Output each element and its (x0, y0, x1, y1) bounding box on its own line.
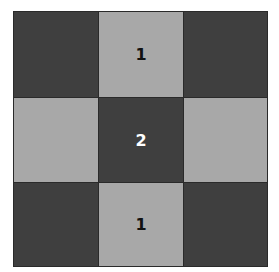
cell-r1-c1[interactable]: 2 (99, 98, 183, 182)
cell-r2-c2[interactable] (184, 183, 267, 266)
cell-r1-c2[interactable] (184, 98, 267, 182)
cell-r2-c1[interactable]: 1 (99, 183, 183, 266)
cell-value: 1 (135, 45, 146, 64)
game-board: 1 2 1 (13, 11, 268, 267)
cell-r0-c0[interactable] (14, 12, 98, 97)
cell-r0-c1[interactable]: 1 (99, 12, 183, 97)
cell-value: 1 (135, 215, 146, 234)
cell-r2-c0[interactable] (14, 183, 98, 266)
cell-value: 2 (135, 131, 146, 150)
cell-r0-c2[interactable] (184, 12, 267, 97)
cell-r1-c0[interactable] (14, 98, 98, 182)
